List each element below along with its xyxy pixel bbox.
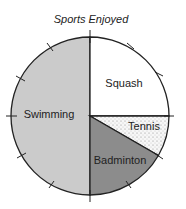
- pie-chart: Sports Enjoyed: [0, 0, 186, 209]
- label-swimming: Swimming: [24, 108, 75, 120]
- label-squash: Squash: [105, 77, 142, 89]
- label-tennis: Tennis: [128, 120, 160, 132]
- pie-chart-svg: Squash Tennis Badminton Swimming: [0, 0, 186, 209]
- label-badminton: Badminton: [94, 154, 147, 166]
